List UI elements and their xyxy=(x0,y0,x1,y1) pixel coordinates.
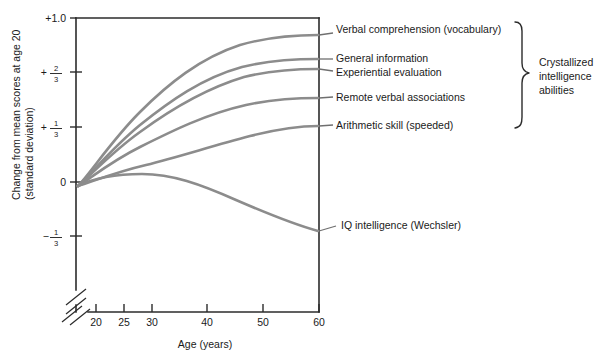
y-tick-label-2: + 2 3 xyxy=(41,64,62,84)
x-axis-ticks xyxy=(96,304,319,312)
x-tick-label-50: 50 xyxy=(257,316,269,328)
curve-experiential-evaluation xyxy=(78,69,318,186)
series-label-experiential-evaluation: Experiential evaluation xyxy=(336,66,442,78)
leader-experiential-evaluation xyxy=(319,69,333,71)
x-axis-tick-labels: 20 25 30 40 50 60 xyxy=(90,316,325,328)
series-label-general-information: General information xyxy=(336,52,428,64)
y-axis-title: Change from mean scores at age 20 (stand… xyxy=(10,29,35,200)
y-tick-label-5: − 1 3 xyxy=(43,228,62,248)
series-label-arithmetic-skill: Arithmetic skill (speeded) xyxy=(336,119,453,131)
y-axis-title-line-1: Change from mean scores at age 20 xyxy=(10,29,22,200)
x-axis-break-slash-2 xyxy=(70,309,90,325)
chart-figure: +1.0 + 2 3 + 1 3 0 − 1 3 xyxy=(0,0,600,360)
chart-svg: +1.0 + 2 3 + 1 3 0 − 1 3 xyxy=(0,0,600,360)
y-axis-title-line-2: (standard deviation) xyxy=(23,107,35,200)
x-tick-label-40: 40 xyxy=(201,316,213,328)
x-axis-title: Age (years) xyxy=(178,338,232,350)
curve-general-information xyxy=(78,59,318,186)
x-tick-label-60: 60 xyxy=(313,316,325,328)
y-tick-label-5-numerator: 1 xyxy=(54,228,58,237)
y-axis-tick-labels: +1.0 + 2 3 + 1 3 0 − 1 3 xyxy=(41,12,66,248)
plot-frame xyxy=(76,18,319,312)
y-tick-label-4: 0 xyxy=(60,176,66,188)
y-axis-break-slash-1 xyxy=(66,289,86,305)
curve-iq-intelligence xyxy=(78,174,318,231)
x-tick-label-25: 25 xyxy=(118,316,130,328)
series-leader-lines xyxy=(319,33,336,231)
leader-remote-verbal-associations xyxy=(319,97,333,98)
crystallized-intelligence-bracket: Crystallized intelligence abilities xyxy=(515,22,593,128)
y-tick-label-5-sign: − xyxy=(43,230,49,242)
group-label-line-2: intelligence xyxy=(539,70,592,82)
y-tick-label-1: +1.0 xyxy=(45,12,66,24)
series-label-iq-intelligence: IQ intelligence (Wechsler) xyxy=(341,219,461,231)
curly-brace-icon xyxy=(515,22,529,128)
group-label-line-3: abilities xyxy=(539,84,574,96)
series-label-remote-verbal-associations: Remote verbal associations xyxy=(336,91,465,103)
x-tick-label-30: 30 xyxy=(146,316,158,328)
y-tick-label-2-sign: + xyxy=(41,66,47,78)
y-tick-label-3-numerator: 1 xyxy=(54,119,58,128)
y-tick-label-3-denominator: 3 xyxy=(54,130,58,139)
leader-iq-intelligence xyxy=(319,226,336,231)
y-tick-label-2-numerator: 2 xyxy=(54,64,58,73)
series-labels: Verbal comprehension (vocabulary) Genera… xyxy=(336,23,501,231)
y-tick-label-3: + 1 3 xyxy=(41,119,62,139)
leader-verbal-comprehension xyxy=(319,33,333,35)
x-tick-label-20: 20 xyxy=(90,316,102,328)
leader-arithmetic-skill xyxy=(319,125,333,126)
y-tick-label-5-denominator: 3 xyxy=(54,239,58,248)
y-tick-label-3-sign: + xyxy=(41,121,47,133)
series-curves xyxy=(78,35,318,231)
y-tick-label-2-denominator: 3 xyxy=(54,75,58,84)
group-label-line-1: Crystallized xyxy=(539,56,593,68)
series-label-verbal-comprehension: Verbal comprehension (vocabulary) xyxy=(336,23,501,35)
